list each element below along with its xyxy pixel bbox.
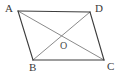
vertex-label-D: D xyxy=(95,3,103,14)
geometry-figure: A D B C O xyxy=(0,0,126,82)
vertex-label-A: A xyxy=(5,3,13,14)
vertex-label-C: C xyxy=(107,61,114,72)
side-AD xyxy=(18,11,90,12)
diagonal-BD xyxy=(33,12,90,60)
vertex-label-B: B xyxy=(29,62,36,73)
intersection-label-O: O xyxy=(60,41,67,51)
